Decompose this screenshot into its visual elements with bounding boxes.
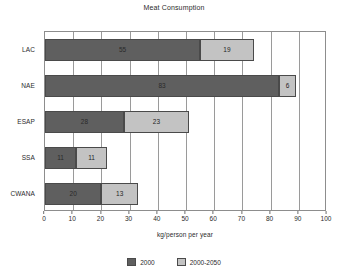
x-tick: 0	[42, 211, 46, 222]
x-tick: 30	[125, 211, 132, 222]
bar-value-label: 19	[223, 47, 230, 54]
x-tick: 10	[69, 211, 76, 222]
bar-segment: 6	[279, 75, 296, 97]
tick-mark	[297, 211, 298, 214]
chart-title: Meat Consumption	[0, 4, 348, 11]
legend-swatch	[127, 258, 136, 266]
x-tick: 80	[266, 211, 273, 222]
x-tick: 90	[294, 211, 301, 222]
bar-value-label: 13	[116, 191, 123, 198]
bar-segment: 11	[76, 147, 107, 169]
bars-layer: 5519836282311112013	[45, 32, 325, 210]
bar-segment: 20	[45, 183, 101, 205]
bar-row: 2013	[45, 183, 138, 205]
bar-value-label: 28	[81, 119, 88, 126]
tick-mark	[72, 211, 73, 214]
tick-mark	[325, 211, 326, 214]
legend-item[interactable]: 2000-2050	[177, 258, 221, 266]
x-tick: 40	[153, 211, 160, 222]
tick-label: 40	[153, 215, 160, 222]
tick-mark	[44, 211, 45, 214]
tick-mark	[128, 211, 129, 214]
y-axis-category-labels: LACNAEESAPSSACWANA	[0, 31, 40, 211]
tick-label: 20	[97, 215, 104, 222]
tick-label: 80	[266, 215, 273, 222]
bar-row: 1111	[45, 147, 107, 169]
y-axis-label: LAC	[22, 46, 35, 53]
x-tick: 20	[97, 211, 104, 222]
bar-value-label: 55	[119, 47, 126, 54]
legend-swatch	[177, 258, 186, 266]
tick-mark	[156, 211, 157, 214]
bar-value-label: 20	[70, 191, 77, 198]
bar-row: 2823	[45, 111, 189, 133]
chart-legend: 20002000-2050	[0, 258, 348, 266]
tick-label: 60	[210, 215, 217, 222]
tick-mark	[184, 211, 185, 214]
bar-segment: 13	[101, 183, 138, 205]
y-axis-label: ESAP	[17, 118, 35, 125]
bar-value-label: 11	[57, 155, 64, 162]
bar-value-label: 11	[88, 155, 95, 162]
tick-mark	[100, 211, 101, 214]
bar-value-label: 6	[286, 83, 290, 90]
tick-label: 70	[238, 215, 245, 222]
bar-row: 836	[45, 75, 296, 97]
x-tick: 60	[210, 211, 217, 222]
bar-value-label: 23	[153, 119, 160, 126]
tick-mark	[269, 211, 270, 214]
bar-segment: 83	[45, 75, 279, 97]
x-axis-title: kg/person per year	[44, 231, 326, 238]
bar-row: 5519	[45, 39, 254, 61]
tick-label: 0	[42, 215, 46, 222]
bar-segment: 55	[45, 39, 200, 61]
meat-consumption-chart: Meat Consumption 5519836282311112013 LAC…	[0, 0, 348, 279]
tick-mark	[213, 211, 214, 214]
tick-label: 50	[181, 215, 188, 222]
tick-mark	[241, 211, 242, 214]
bar-segment: 23	[124, 111, 189, 133]
y-axis-label: NAE	[21, 82, 35, 89]
legend-label: 2000	[140, 259, 154, 266]
bar-segment: 19	[200, 39, 254, 61]
bar-segment: 11	[45, 147, 76, 169]
legend-item[interactable]: 2000	[127, 258, 154, 266]
tick-label: 10	[69, 215, 76, 222]
plot-area: 5519836282311112013	[44, 31, 326, 211]
x-tick: 100	[321, 211, 332, 222]
tick-label: 90	[294, 215, 301, 222]
tick-label: 30	[125, 215, 132, 222]
x-tick: 50	[181, 211, 188, 222]
bar-segment: 28	[45, 111, 124, 133]
tick-label: 100	[321, 215, 332, 222]
bar-value-label: 83	[158, 83, 165, 90]
y-axis-label: SSA	[22, 154, 35, 161]
x-axis-ticks: 0102030405060708090100	[44, 211, 326, 225]
x-tick: 70	[238, 211, 245, 222]
y-axis-label: CWANA	[11, 190, 35, 197]
legend-label: 2000-2050	[190, 259, 221, 266]
